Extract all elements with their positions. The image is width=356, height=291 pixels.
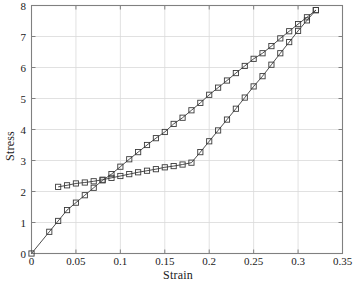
x-tick-label: 0.15 [155, 256, 174, 267]
y-tick-label: 1 [12, 217, 26, 228]
stress-strain-figure: Strain Stress 00.050.10.150.20.250.30.35… [0, 0, 356, 291]
x-axis-label: Strain [0, 268, 356, 283]
x-tick-label: 0.2 [202, 256, 216, 267]
y-tick-label: 6 [12, 62, 26, 73]
x-tick-label: 0.1 [113, 256, 127, 267]
x-tick-label: 0.35 [333, 256, 352, 267]
x-tick-label: 0.25 [244, 256, 263, 267]
x-tick-label: 0.3 [291, 256, 305, 267]
y-tick-label: 3 [12, 155, 26, 166]
y-tick-label: 5 [12, 93, 26, 104]
y-tick-label: 8 [12, 0, 26, 11]
x-tick-label: 0.05 [66, 256, 85, 267]
y-tick-label: 4 [12, 124, 26, 135]
x-tick-label: 0 [29, 256, 35, 267]
chart-plot-area [0, 0, 356, 291]
y-tick-label: 0 [12, 248, 26, 259]
y-tick-label: 7 [12, 31, 26, 42]
series-line-monotonic-curve [32, 10, 316, 253]
y-tick-label: 2 [12, 186, 26, 197]
